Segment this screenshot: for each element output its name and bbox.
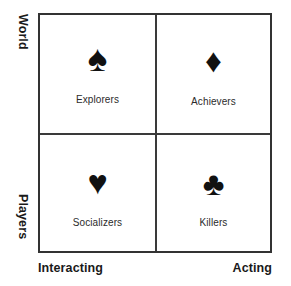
quadrant-socializers: ♥ Socializers <box>40 135 155 251</box>
quadrant-achievers: ♦ Achievers <box>157 15 270 133</box>
axis-label-interacting: Interacting <box>38 261 103 275</box>
axis-label-players: Players <box>16 194 30 239</box>
bartle-quadrant-diagram: World Players Interacting Acting ♠ Explo… <box>0 0 291 286</box>
diamond-icon: ♦ <box>205 44 222 77</box>
heart-icon: ♥ <box>87 165 107 199</box>
axis-label-acting: Acting <box>233 261 273 275</box>
quadrant-label-killers: Killers <box>200 217 228 228</box>
quadrant-killers: ♣ Killers <box>157 135 270 251</box>
spade-icon: ♠ <box>88 40 108 77</box>
quadrant-matrix: ♠ Explorers ♦ Achievers ♥ Socializers ♣ … <box>38 13 272 253</box>
quadrant-explorers: ♠ Explorers <box>40 15 155 133</box>
quadrant-label-achievers: Achievers <box>191 96 236 107</box>
axis-label-world: World <box>16 14 30 50</box>
quadrant-label-socializers: Socializers <box>73 217 122 228</box>
quadrant-label-explorers: Explorers <box>76 94 119 105</box>
club-icon: ♣ <box>203 167 225 200</box>
